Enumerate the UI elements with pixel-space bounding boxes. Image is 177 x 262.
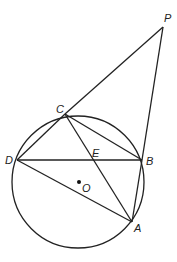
label-c: C (56, 103, 64, 115)
segment-cd (17, 114, 65, 160)
label-o: O (82, 182, 91, 194)
geometry-diagram: P C D E B A O (0, 0, 177, 262)
label-a: A (133, 222, 141, 234)
segment-ca (65, 114, 132, 222)
segment-pc (65, 27, 163, 114)
segment-da (17, 160, 132, 222)
label-b: B (146, 155, 153, 167)
segment-pb (142, 27, 163, 160)
label-d: D (5, 154, 13, 166)
center-dot-o (77, 180, 81, 184)
label-e: E (92, 147, 100, 159)
label-p: P (164, 12, 172, 24)
